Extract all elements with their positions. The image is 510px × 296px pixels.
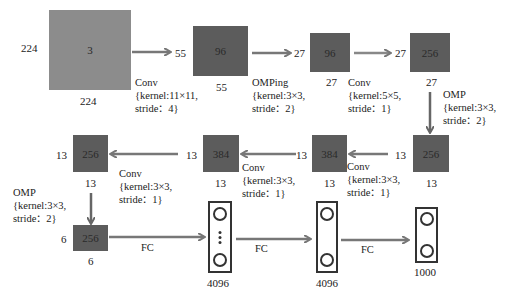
feature-map-1-width: 55	[216, 81, 227, 93]
feature-map-3-width: 27	[426, 76, 437, 88]
op-label-1: Conv {kernel:11×11, stride：4}	[135, 76, 198, 115]
feature-map-2-width: 27	[326, 76, 337, 88]
feature-map-2-height: 27	[294, 47, 305, 59]
feature-map-6-width: 13	[215, 177, 226, 189]
fc-layer-1-units: 4096	[207, 277, 229, 289]
feature-map-3-height: 27	[395, 47, 406, 59]
ellipsis-icon	[219, 229, 222, 246]
feature-map-2: 96	[310, 33, 350, 72]
op-label-5: Conv {kernel:3×3, stride：1}	[347, 160, 400, 199]
op-label-6: Conv {kernel:3×3, stride：1}	[242, 161, 295, 200]
feature-map-7-depth: 256	[82, 148, 99, 160]
feature-map-8: 256	[73, 225, 108, 251]
op-label-7: Conv {kernel:3×3, stride：1}	[119, 167, 172, 206]
op-label-4: OMP {kernel:3×3, stride：2}	[443, 88, 496, 127]
feature-map-7: 256	[73, 135, 108, 172]
feature-map-5-height: 13	[296, 149, 307, 161]
input-feature-map: 3	[49, 10, 131, 90]
feature-map-8-depth: 256	[82, 232, 99, 244]
fc-layer-3	[415, 207, 438, 263]
fc-layer-1	[208, 201, 232, 273]
feature-map-4-depth: 256	[423, 148, 440, 160]
neuron-icon	[213, 207, 227, 221]
op-label-2: OMPing {kernel:3×3, stride：2}	[252, 76, 305, 115]
op-label-3: Conv {kernel:5×5, stride：1}	[348, 76, 401, 115]
feature-map-5-depth: 384	[321, 148, 338, 160]
neuron-icon	[420, 244, 434, 258]
feature-map-1-depth: 96	[215, 45, 226, 57]
neuron-icon	[420, 212, 434, 226]
fc-layer-3-units: 1000	[414, 266, 436, 278]
feature-map-6: 384	[203, 135, 239, 172]
fc-label-1: FC	[141, 241, 154, 254]
feature-map-3: 256	[410, 33, 450, 72]
feature-map-8-width: 6	[88, 255, 94, 267]
neuron-icon	[320, 207, 334, 221]
fc-layer-2-units: 4096	[316, 277, 338, 289]
feature-map-1: 96	[193, 26, 248, 76]
feature-map-3-depth: 256	[422, 47, 439, 59]
neuron-icon	[320, 253, 334, 267]
feature-map-6-height: 13	[186, 149, 197, 161]
input-width: 224	[80, 95, 97, 107]
fc-label-3: FC	[361, 243, 374, 256]
feature-map-1-height: 55	[175, 47, 186, 59]
feature-map-7-height: 13	[56, 149, 67, 161]
feature-map-5: 384	[312, 135, 347, 172]
feature-map-8-height: 6	[61, 233, 67, 245]
feature-map-2-depth: 96	[325, 47, 336, 59]
input-height: 224	[21, 42, 38, 54]
input-depth: 3	[87, 44, 93, 56]
feature-map-6-depth: 384	[213, 148, 230, 160]
op-label-8: OMP {kernel:3×3, stride：2}	[13, 186, 66, 225]
feature-map-4: 256	[413, 135, 449, 172]
feature-map-4-width: 13	[426, 177, 437, 189]
neuron-icon	[213, 253, 227, 267]
fc-layer-2	[316, 201, 338, 273]
fc-label-2: FC	[255, 242, 268, 255]
feature-map-5-width: 13	[324, 177, 335, 189]
feature-map-7-width: 13	[85, 177, 96, 189]
